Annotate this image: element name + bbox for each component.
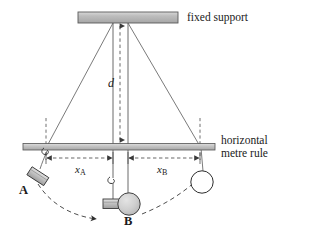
fixed-support-bar bbox=[78, 12, 178, 23]
fixed-support-label: fixed support bbox=[187, 11, 248, 24]
metre-rule-label-line1: horizontal bbox=[221, 134, 268, 146]
xb-subscript: B bbox=[162, 168, 167, 177]
horizontal-metre-rule-label: horizontalmetre rule bbox=[221, 134, 268, 160]
pendulum-string-right-displaced bbox=[201, 148, 203, 171]
diagram-canvas bbox=[0, 0, 312, 241]
pendulum-string-right-outer bbox=[128, 23, 201, 148]
pendulum-bob-b bbox=[103, 177, 140, 215]
physics-diagram-figure: fixed support horizontalmetre rule d xA … bbox=[0, 0, 312, 241]
xa-subscript: A bbox=[80, 168, 86, 177]
metre-rule-label-line2: metre rule bbox=[221, 147, 268, 159]
distance-d-label: d bbox=[108, 77, 114, 90]
bob-a-label: A bbox=[19, 183, 28, 197]
bob-b-label: B bbox=[124, 214, 132, 228]
distance-xb-label: xB bbox=[157, 163, 167, 178]
pendulum-bob-right bbox=[191, 171, 213, 193]
horizontal-metre-rule-bar bbox=[23, 144, 215, 151]
distance-xa-label: xA bbox=[75, 163, 86, 178]
pendulum-string-left-outer bbox=[46, 23, 113, 148]
